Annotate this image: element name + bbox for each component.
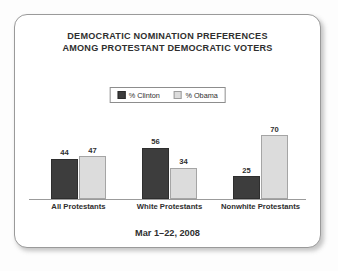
bar-wrap-obama-0: 47 [79, 115, 106, 199]
screenshot-root: DEMOCRATIC NOMINATION PREFERENCES AMONG … [0, 0, 338, 271]
bar-group-all-protestants: 44 47 [33, 115, 124, 199]
category-label-0: All Protestants [33, 202, 124, 211]
chart-title-line-1: DEMOCRATIC NOMINATION PREFERENCES [15, 30, 320, 42]
chart-legend: % Clinton % Obama [109, 87, 226, 103]
bar-group-nonwhite-protestants: 25 70 [215, 115, 306, 199]
bar-groups: 44 47 56 34 [33, 115, 306, 199]
legend-item-clinton: % Clinton [117, 91, 160, 100]
bar-wrap-clinton-0: 44 [51, 115, 78, 199]
x-axis-category-labels: All Protestants White Protestants Nonwhi… [33, 202, 306, 211]
legend-item-obama: % Obama [174, 91, 218, 100]
bar-value-obama-0: 47 [88, 146, 96, 155]
plot-area: 44 47 56 34 [33, 115, 306, 199]
chart-title: DEMOCRATIC NOMINATION PREFERENCES AMONG … [15, 30, 320, 54]
legend-label-clinton: % Clinton [129, 91, 160, 100]
bar-wrap-obama-1: 34 [170, 115, 197, 199]
bar-obama-0 [79, 156, 106, 199]
bar-value-clinton-2: 25 [242, 166, 250, 175]
bar-value-clinton-0: 44 [60, 148, 68, 157]
bar-wrap-obama-2: 70 [261, 115, 288, 199]
bar-clinton-1 [142, 148, 169, 199]
bar-obama-2 [261, 135, 288, 199]
x-axis-line [29, 199, 306, 200]
bar-value-obama-2: 70 [270, 125, 278, 134]
chart-footer-date: Mar 1–22, 2008 [15, 228, 320, 238]
bar-value-obama-1: 34 [179, 157, 187, 166]
obama-swatch-icon [174, 91, 182, 99]
category-label-2: Nonwhite Protestants [215, 202, 306, 211]
bar-wrap-clinton-2: 25 [233, 115, 260, 199]
bar-clinton-0 [51, 159, 78, 199]
bar-wrap-clinton-1: 56 [142, 115, 169, 199]
category-label-1: White Protestants [124, 202, 215, 211]
chart-card: DEMOCRATIC NOMINATION PREFERENCES AMONG … [14, 14, 321, 248]
clinton-swatch-icon [117, 91, 125, 99]
bar-group-white-protestants: 56 34 [124, 115, 215, 199]
bar-clinton-2 [233, 176, 260, 199]
bar-obama-1 [170, 168, 197, 199]
chart-title-line-2: AMONG PROTESTANT DEMOCRATIC VOTERS [15, 42, 320, 54]
legend-label-obama: % Obama [185, 91, 217, 100]
bar-value-clinton-1: 56 [151, 137, 159, 146]
